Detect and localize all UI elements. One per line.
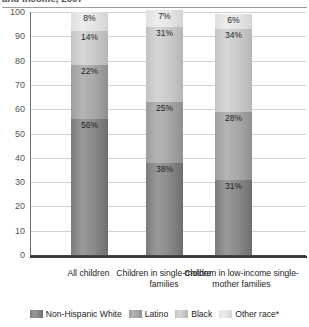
legend-swatch-icon <box>129 310 142 318</box>
bar-segment[interactable]: 14% <box>71 31 108 65</box>
bar-segment[interactable]: 7% <box>146 10 183 27</box>
bar-segment-label: 22% <box>81 65 98 76</box>
bar-segment[interactable]: 31% <box>146 27 183 102</box>
y-axis-tick-label: 90 <box>15 32 25 41</box>
y-axis-tick-label: 20 <box>15 202 25 211</box>
y-axis-tick-label: 10 <box>15 227 25 236</box>
y-axis-tick-label: 80 <box>15 57 25 66</box>
bar-segment-label: 56% <box>81 119 98 130</box>
bar-segment[interactable]: 31% <box>215 180 252 255</box>
legend-item[interactable]: Latino <box>129 310 168 319</box>
bar-segment-label: 31% <box>156 27 173 38</box>
legend-swatch-icon <box>219 310 232 318</box>
legend-item[interactable]: Black <box>175 310 212 319</box>
stacked-bar[interactable]: 8%14%22%56% <box>71 12 108 255</box>
legend-label: Black <box>191 310 212 319</box>
chart-plot-wrapper: 0102030405060708090100 8%14%22%56%7%31%2… <box>0 12 309 267</box>
bar-segment-label: 28% <box>225 112 242 123</box>
y-axis-tick-label: 100 <box>10 8 25 17</box>
legend-label: Non-Hispanic White <box>46 310 122 319</box>
y-axis-tick-label: 50 <box>15 130 25 139</box>
bar-segment-label: 6% <box>227 14 239 25</box>
chart-title-container: and income, 2007 <box>0 0 309 7</box>
plot-area: 8%14%22%56%7%31%25%38%6%34%28%31% <box>30 12 306 256</box>
y-axis-tick-label: 30 <box>15 178 25 187</box>
bar-segment[interactable]: 8% <box>71 12 108 31</box>
stacked-bar[interactable]: 6%34%28%31% <box>215 14 252 255</box>
bar-segment-label: 34% <box>225 29 242 40</box>
bar-segment-label: 31% <box>225 180 242 191</box>
y-axis: 0102030405060708090100 <box>0 12 29 267</box>
bar-segment[interactable]: 34% <box>215 29 252 112</box>
bar-segment[interactable]: 28% <box>215 112 252 180</box>
x-axis-category-label: Children in low-income single-mother fam… <box>176 268 307 289</box>
y-axis-tick-label: 60 <box>15 105 25 114</box>
legend-swatch-icon <box>30 310 43 318</box>
y-axis-tick-label: 40 <box>15 154 25 163</box>
legend-item[interactable]: Other race* <box>219 310 279 319</box>
y-axis-tick-label: 0 <box>20 251 25 260</box>
legend-label: Latino <box>145 310 168 319</box>
bar-segment-label: 7% <box>158 10 170 21</box>
title-divider <box>2 7 307 8</box>
page-title: and income, 2007 <box>0 0 309 4</box>
bar-segment[interactable]: 25% <box>146 102 183 163</box>
legend-swatch-icon <box>175 310 188 318</box>
bar-segment-label: 14% <box>81 31 98 42</box>
bar-segment-label: 25% <box>156 102 173 113</box>
x-axis-category-labels: All childrenChildren in single-mother fa… <box>30 268 307 302</box>
chart-legend: Non-Hispanic WhiteLatinoBlackOther race* <box>0 307 309 321</box>
bar-segment[interactable]: 56% <box>71 119 108 255</box>
bar-segment[interactable]: 22% <box>71 65 108 118</box>
bar-segment-label: 8% <box>83 12 95 23</box>
legend-label: Other race* <box>235 310 279 319</box>
x-axis-line <box>30 256 307 258</box>
legend-item[interactable]: Non-Hispanic White <box>30 310 122 319</box>
stacked-bar[interactable]: 7%31%25%38% <box>146 10 183 255</box>
bar-segment[interactable]: 6% <box>215 14 252 29</box>
y-axis-tick-label: 70 <box>15 81 25 90</box>
bar-segment[interactable]: 38% <box>146 163 183 255</box>
bar-segment-label: 38% <box>156 163 173 174</box>
